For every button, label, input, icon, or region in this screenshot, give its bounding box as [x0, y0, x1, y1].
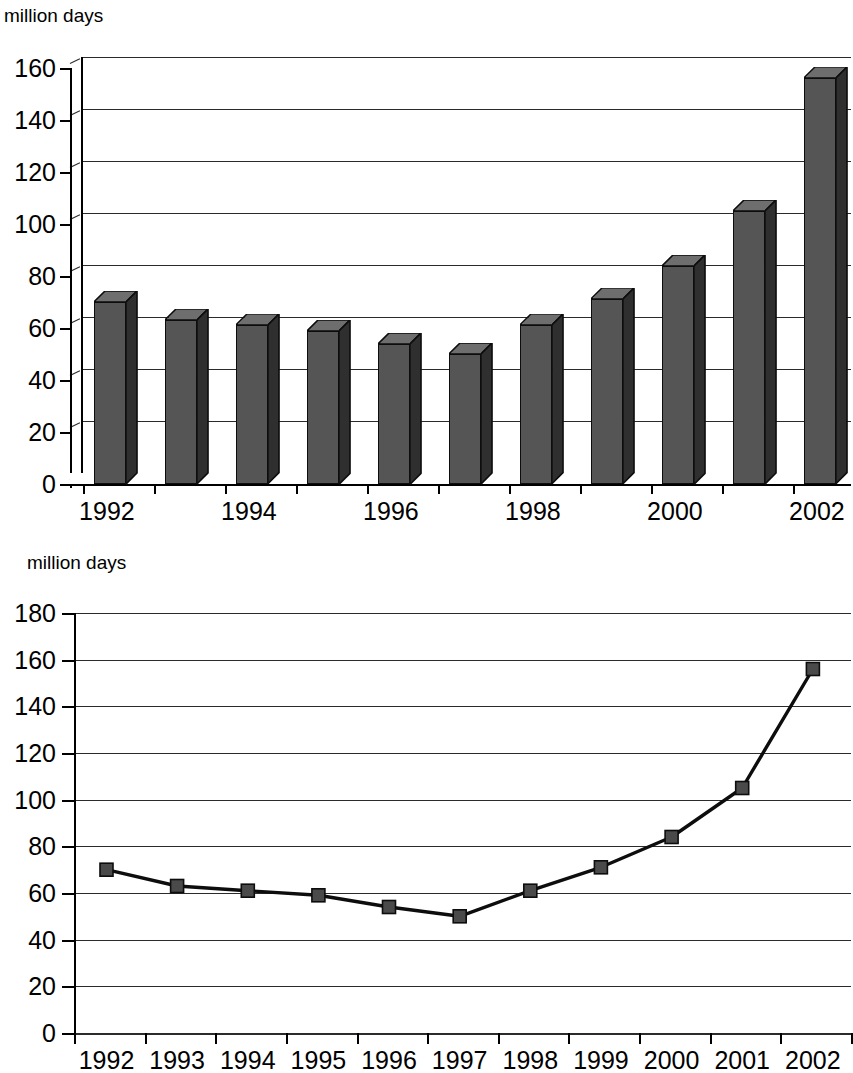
series-line	[107, 669, 813, 916]
bar-side-outline	[623, 288, 636, 486]
bar-front-face	[733, 211, 765, 484]
y-axis-label: 60	[28, 316, 56, 341]
x-axis-tick	[580, 484, 582, 494]
bar-front-face	[307, 331, 339, 484]
y-axis-label: 140	[14, 108, 56, 133]
bar-column	[591, 288, 634, 484]
bar-front-face	[520, 325, 552, 484]
bar-side-outline	[410, 333, 423, 486]
bar-front-face	[236, 325, 268, 484]
bottom-chart-axis-title: million days	[27, 553, 126, 572]
y-axis-tick	[60, 328, 70, 330]
bar-column	[94, 291, 137, 484]
bar-column	[662, 255, 705, 484]
x-axis-tick	[154, 484, 156, 494]
x-axis-label: 2000	[647, 498, 703, 524]
bar-column	[236, 314, 279, 484]
bar-column	[165, 309, 208, 484]
gridline	[81, 57, 851, 58]
gridline-connector	[70, 58, 80, 64]
y-axis-label: 40	[28, 368, 56, 393]
x-axis-label: 1997	[432, 1047, 488, 1073]
line-chart-plot-area: 180160140120100806040200	[0, 585, 851, 1045]
bar-side-outline	[126, 291, 139, 486]
y-axis-label: 0	[42, 472, 56, 497]
y-axis-back-line	[81, 57, 83, 484]
y-axis-label: 20	[28, 420, 56, 445]
x-axis-label: 1992	[79, 1047, 135, 1073]
bar-side-outline	[197, 309, 210, 486]
data-point-marker	[736, 782, 749, 795]
x-axis-label: 1996	[361, 1047, 417, 1073]
y-axis-tick	[60, 276, 70, 278]
x-axis-tick	[509, 484, 511, 494]
y-axis-label: 160	[14, 56, 56, 81]
bar-front-face	[449, 354, 481, 484]
bar-column	[449, 343, 492, 484]
x-axis-label: 1993	[149, 1047, 205, 1073]
data-point-marker	[312, 889, 325, 902]
x-axis-label: 1998	[505, 498, 561, 524]
bar-side-outline	[268, 314, 281, 486]
data-point-marker	[383, 901, 396, 914]
bar-side-outline	[694, 255, 707, 486]
bar-side-outline	[481, 343, 494, 486]
x-axis-label: 1999	[573, 1047, 629, 1073]
bar-column	[804, 67, 847, 484]
y-axis-tick	[60, 68, 70, 70]
bar-column	[378, 333, 421, 484]
bar-side-outline	[836, 67, 849, 486]
data-point-marker	[806, 663, 819, 676]
bar-front-face	[804, 78, 836, 484]
data-point-marker	[171, 880, 184, 893]
data-point-marker	[100, 863, 113, 876]
data-point-marker	[524, 884, 537, 897]
x-axis-label: 2001	[714, 1047, 770, 1073]
data-point-marker	[241, 884, 254, 897]
x-axis-tick	[225, 484, 227, 494]
data-point-marker	[594, 861, 607, 874]
x-axis-tick	[793, 484, 795, 494]
bar-column	[733, 200, 776, 484]
x-axis-label: 1994	[220, 1047, 276, 1073]
x-axis-label: 1992	[79, 498, 135, 524]
bar-chart-panel: million days 160140120100806040200 19921…	[0, 0, 851, 550]
line-chart-panel: million days 180160140120100806040200 19…	[0, 545, 851, 1048]
x-axis-tick	[367, 484, 369, 494]
bar-front-face	[378, 344, 410, 484]
gridline	[81, 161, 851, 162]
x-axis-label: 1996	[363, 498, 419, 524]
bar-column	[307, 320, 350, 484]
gridline	[81, 109, 851, 110]
x-axis-label: 2002	[785, 1047, 841, 1073]
bar-side-outline	[552, 314, 565, 486]
y-axis-label: 120	[14, 160, 56, 185]
x-axis-label: 1995	[291, 1047, 347, 1073]
x-axis-label: 2002	[789, 498, 845, 524]
bar-chart-plot-area: 160140120100806040200	[0, 40, 851, 510]
y-axis-tick	[60, 224, 70, 226]
x-axis-tick	[722, 484, 724, 494]
x-axis-tick	[296, 484, 298, 494]
x-axis-label: 2000	[644, 1047, 700, 1073]
bar-side-outline	[765, 200, 778, 486]
y-axis-tick	[60, 432, 70, 434]
y-axis-tick	[60, 380, 70, 382]
line-series	[0, 585, 851, 1053]
y-axis-tick	[60, 172, 70, 174]
bar-side-outline	[339, 320, 352, 486]
top-chart-axis-title: million days	[4, 6, 103, 25]
y-axis-line	[70, 68, 72, 488]
y-axis-label: 80	[28, 264, 56, 289]
x-axis-tick	[438, 484, 440, 494]
bar-front-face	[165, 320, 197, 484]
x-axis-label: 1994	[221, 498, 277, 524]
x-axis-tick	[83, 484, 85, 494]
y-axis-label: 100	[14, 212, 56, 237]
bar-front-face	[662, 266, 694, 484]
data-point-marker	[453, 910, 466, 923]
x-axis-label: 1998	[502, 1047, 558, 1073]
bar-front-face	[591, 299, 623, 484]
bar-column	[520, 314, 563, 484]
y-axis-tick	[60, 120, 70, 122]
